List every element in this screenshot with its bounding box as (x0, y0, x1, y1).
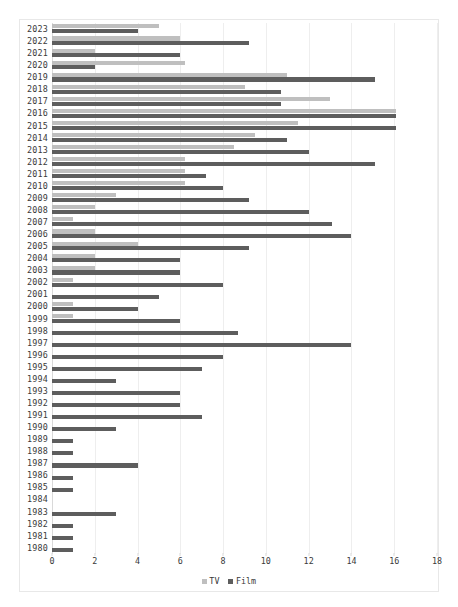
bar-film-2001[interactable] (52, 295, 159, 299)
bar-tv-2014[interactable] (52, 133, 255, 137)
bar-film-2019[interactable] (52, 77, 375, 81)
y-axis-label-1999: 1999 (27, 314, 48, 324)
bar-film-1997[interactable] (52, 343, 351, 347)
bar-group (52, 325, 437, 337)
bar-film-2003[interactable] (52, 270, 180, 274)
bar-tv-2016[interactable] (52, 109, 396, 113)
bar-rows: 2023202220212020201920182017201620152014… (52, 23, 437, 554)
x-axis-tick-0: 0 (49, 556, 54, 566)
bar-film-2016[interactable] (52, 114, 396, 118)
legend-item-tv[interactable]: TV (202, 576, 220, 586)
bar-row: 1988 (52, 445, 437, 457)
bar-film-1985[interactable] (52, 488, 73, 492)
bar-film-1995[interactable] (52, 367, 202, 371)
y-axis-label-1988: 1988 (27, 446, 48, 456)
bar-film-1982[interactable] (52, 524, 73, 528)
bar-film-1989[interactable] (52, 439, 73, 443)
y-axis-label-2009: 2009 (27, 193, 48, 203)
bar-group (52, 397, 437, 409)
y-axis-label-2018: 2018 (27, 84, 48, 94)
bar-tv-2019[interactable] (52, 73, 287, 77)
bar-film-2010[interactable] (52, 186, 223, 190)
bar-film-1981[interactable] (52, 536, 73, 540)
bar-film-1999[interactable] (52, 319, 180, 323)
bar-film-2013[interactable] (52, 150, 309, 154)
bar-group (52, 481, 437, 493)
bar-film-2014[interactable] (52, 138, 287, 142)
bar-film-2021[interactable] (52, 53, 180, 57)
bar-film-1990[interactable] (52, 427, 116, 431)
bar-film-2012[interactable] (52, 162, 375, 166)
bar-film-1991[interactable] (52, 415, 202, 419)
bar-tv-2013[interactable] (52, 145, 234, 149)
bar-film-1986[interactable] (52, 476, 73, 480)
bar-film-2009[interactable] (52, 198, 249, 202)
x-axis-tick-18: 18 (432, 556, 442, 566)
bar-tv-2008[interactable] (52, 205, 95, 209)
bar-film-1993[interactable] (52, 391, 180, 395)
bar-film-2018[interactable] (52, 90, 281, 94)
bar-row: 1980 (52, 542, 437, 554)
bar-film-1994[interactable] (52, 379, 116, 383)
bar-tv-2004[interactable] (52, 254, 95, 258)
bar-film-2011[interactable] (52, 174, 206, 178)
bar-row: 1983 (52, 506, 437, 518)
legend-item-film[interactable]: Film (228, 576, 256, 586)
bar-tv-2020[interactable] (52, 61, 185, 65)
x-axis-tick-8: 8 (221, 556, 226, 566)
bar-tv-2023[interactable] (52, 24, 159, 28)
bar-film-1980[interactable] (52, 548, 73, 552)
bar-tv-2011[interactable] (52, 169, 185, 173)
bar-tv-2010[interactable] (52, 181, 185, 185)
y-axis-label-1989: 1989 (27, 434, 48, 444)
bar-row: 1985 (52, 481, 437, 493)
bar-row: 2001 (52, 288, 437, 300)
bar-tv-2012[interactable] (52, 157, 185, 161)
bar-film-1996[interactable] (52, 355, 223, 359)
bar-tv-2007[interactable] (52, 217, 73, 221)
bar-tv-1999[interactable] (52, 314, 73, 318)
x-axis-tick-16: 16 (389, 556, 399, 566)
bar-film-1983[interactable] (52, 512, 116, 516)
bar-group (52, 216, 437, 228)
bar-film-2005[interactable] (52, 246, 249, 250)
bar-row: 2015 (52, 120, 437, 132)
bar-group (52, 132, 437, 144)
bar-group (52, 144, 437, 156)
bar-film-2002[interactable] (52, 283, 223, 287)
bar-tv-2022[interactable] (52, 36, 180, 40)
bar-tv-2015[interactable] (52, 121, 298, 125)
bar-tv-2002[interactable] (52, 278, 73, 282)
bar-film-2004[interactable] (52, 258, 180, 262)
bar-row: 2013 (52, 144, 437, 156)
bar-film-1992[interactable] (52, 403, 180, 407)
bar-group (52, 385, 437, 397)
bar-film-2022[interactable] (52, 41, 249, 45)
bar-tv-2006[interactable] (52, 229, 95, 233)
bar-tv-2021[interactable] (52, 49, 95, 53)
bar-tv-2018[interactable] (52, 85, 245, 89)
y-axis-label-2016: 2016 (27, 108, 48, 118)
y-axis-label-2012: 2012 (27, 157, 48, 167)
bar-film-1998[interactable] (52, 331, 238, 335)
bar-row: 1987 (52, 457, 437, 469)
bar-tv-2017[interactable] (52, 97, 330, 101)
y-axis-label-1983: 1983 (27, 507, 48, 517)
bar-tv-2005[interactable] (52, 242, 138, 246)
bar-tv-2000[interactable] (52, 302, 73, 306)
bar-tv-2009[interactable] (52, 193, 116, 197)
bar-row: 2008 (52, 204, 437, 216)
bar-group (52, 264, 437, 276)
bar-tv-2003[interactable] (52, 266, 95, 270)
bar-film-2015[interactable] (52, 126, 396, 130)
bar-group (52, 409, 437, 421)
bar-film-2007[interactable] (52, 222, 332, 226)
bar-film-2020[interactable] (52, 65, 95, 69)
bar-film-2006[interactable] (52, 234, 351, 238)
bar-film-1987[interactable] (52, 463, 138, 467)
bar-film-2000[interactable] (52, 307, 138, 311)
bar-film-2017[interactable] (52, 102, 281, 106)
bar-film-2023[interactable] (52, 29, 138, 33)
bar-film-2008[interactable] (52, 210, 309, 214)
bar-film-1988[interactable] (52, 451, 73, 455)
